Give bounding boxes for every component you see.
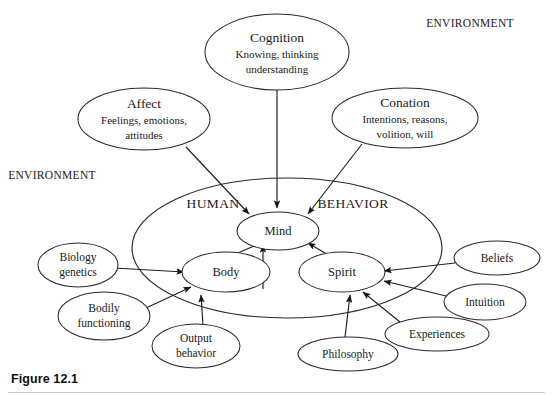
node-output-behavior[interactable]: Output behavior bbox=[152, 324, 240, 368]
biology-genetics-line-2: genetics bbox=[59, 266, 97, 279]
environment-label-top-right: ENVIRONMENT bbox=[426, 17, 514, 29]
node-spirit[interactable]: Spirit bbox=[299, 252, 385, 292]
output-behavior-line-2: behavior bbox=[176, 347, 216, 359]
experiences-title: Experiences bbox=[409, 328, 466, 341]
environment-label-left: ENVIRONMENT bbox=[8, 169, 96, 181]
conation-line-1: Intentions, reasons, bbox=[362, 113, 447, 125]
region-label-human: HUMAN bbox=[186, 196, 239, 211]
edge-biology-genetics-to-body bbox=[114, 268, 184, 272]
cognition-title: Cognition bbox=[250, 30, 304, 45]
conation-title: Conation bbox=[380, 95, 430, 110]
spirit-title: Spirit bbox=[328, 265, 356, 279]
region-label-behavior: BEHAVIOR bbox=[317, 196, 388, 211]
edge-intuition-to-spirit bbox=[384, 281, 446, 296]
concept-diagram: Cognition Knowing, thinking understandin… bbox=[0, 0, 553, 395]
body-title: Body bbox=[212, 265, 240, 279]
cognition-line-1: Knowing, thinking bbox=[235, 48, 319, 60]
node-affect[interactable]: Affect Feelings, emotions, attitudes bbox=[78, 88, 210, 150]
node-intuition[interactable]: Intuition bbox=[444, 284, 526, 320]
node-conation[interactable]: Conation Intentions, reasons, volition, … bbox=[332, 88, 478, 148]
affect-title: Affect bbox=[127, 96, 161, 111]
figure-container: Cognition Knowing, thinking understandin… bbox=[0, 0, 553, 395]
edge-beliefs-to-spirit bbox=[384, 263, 455, 271]
beliefs-title: Beliefs bbox=[481, 252, 514, 264]
node-body[interactable]: Body bbox=[182, 252, 270, 292]
affect-line-1: Feelings, emotions, bbox=[101, 114, 187, 126]
node-experiences[interactable]: Experiences bbox=[385, 317, 489, 351]
node-mind[interactable]: Mind bbox=[237, 212, 319, 250]
edge-experiences-to-spirit bbox=[363, 292, 400, 322]
output-behavior-line-1: Output bbox=[180, 332, 213, 345]
caption-divider bbox=[8, 392, 545, 393]
bodily-functioning-line-1: Bodily bbox=[88, 302, 120, 315]
node-beliefs[interactable]: Beliefs bbox=[454, 241, 540, 275]
philosophy-title: Philosophy bbox=[322, 348, 374, 361]
node-biology-genetics[interactable]: Biology genetics bbox=[38, 243, 118, 287]
cognition-line-2: understanding bbox=[246, 63, 309, 75]
edge-bodily-functioning-to-body bbox=[146, 287, 191, 308]
conation-line-2: volition, will bbox=[377, 128, 434, 140]
affect-line-2: attitudes bbox=[125, 129, 162, 141]
node-philosophy[interactable]: Philosophy bbox=[298, 337, 398, 371]
edge-output-behavior-to-body bbox=[201, 295, 203, 325]
mind-title: Mind bbox=[264, 224, 292, 238]
node-cognition[interactable]: Cognition Knowing, thinking understandin… bbox=[205, 14, 349, 90]
node-bodily-functioning[interactable]: Bodily functioning bbox=[58, 292, 150, 340]
figure-caption: Figure 12.1 bbox=[11, 372, 78, 386]
bodily-functioning-line-2: functioning bbox=[77, 317, 130, 330]
intuition-title: Intuition bbox=[465, 296, 505, 308]
biology-genetics-line-1: Biology bbox=[59, 251, 96, 264]
edge-philosophy-to-spirit bbox=[345, 295, 350, 337]
